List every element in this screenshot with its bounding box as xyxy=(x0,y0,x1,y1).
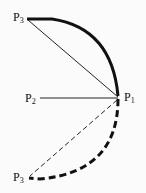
label-p3-top: P3 xyxy=(13,11,24,25)
label-p3-bottom: P3 xyxy=(13,171,24,185)
solid-chord xyxy=(28,20,118,97)
label-p2: P2 xyxy=(25,92,36,106)
label-p1: P1 xyxy=(124,91,135,105)
dashed-chord xyxy=(30,100,117,176)
rotation-arc-diagram: P3 P2 P1 P3 xyxy=(0,0,146,193)
